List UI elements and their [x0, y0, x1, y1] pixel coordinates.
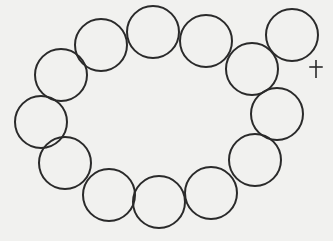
ring-circle — [15, 96, 67, 148]
ring-circle — [35, 49, 87, 101]
ring-circle — [39, 137, 91, 189]
displaced-circle — [266, 9, 318, 61]
circle-ring-diagram — [0, 0, 333, 241]
ring-circle — [251, 88, 303, 140]
ring-circle — [127, 6, 179, 58]
plus-marker-icon — [309, 60, 323, 78]
diagram-canvas — [0, 0, 333, 241]
ring-circle — [133, 176, 185, 228]
ring-circle — [180, 15, 232, 67]
ring-circle — [75, 19, 127, 71]
ring-circle — [83, 169, 135, 221]
ring-circle — [229, 134, 281, 186]
ring-circle — [185, 167, 237, 219]
